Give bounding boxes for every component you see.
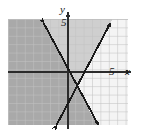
graph-figure: y 5 5 x [0,0,143,135]
y-axis-label: y [60,4,65,15]
x-axis-label: x [125,66,130,77]
coordinate-plane-svg [0,0,143,135]
x-axis-tick-label-5: 5 [109,66,115,77]
y-axis-tick-label-5: 5 [61,17,67,28]
